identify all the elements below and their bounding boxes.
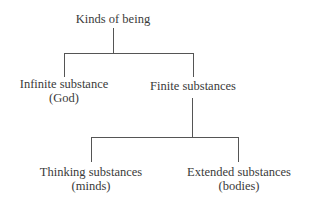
- node-sublabel: (bodies): [178, 179, 300, 193]
- node-extended-substances: Extended substances (bodies): [178, 165, 300, 193]
- node-finite-substances: Finite substances: [140, 79, 246, 93]
- node-sublabel: (God): [8, 91, 120, 105]
- node-label: Infinite substance: [8, 77, 120, 91]
- node-label: Thinking substances: [28, 165, 154, 179]
- node-label: Extended substances: [178, 165, 300, 179]
- node-infinite-substance: Infinite substance (God): [8, 77, 120, 105]
- node-label: Kinds of being: [76, 12, 150, 26]
- node-label: Finite substances: [150, 79, 236, 93]
- node-kinds-of-being: Kinds of being: [63, 12, 163, 26]
- node-sublabel: (minds): [28, 179, 154, 193]
- node-thinking-substances: Thinking substances (minds): [28, 165, 154, 193]
